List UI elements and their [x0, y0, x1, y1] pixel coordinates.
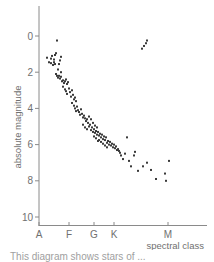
data-point: [89, 124, 91, 126]
data-point: [124, 153, 126, 155]
data-point: [108, 144, 110, 146]
data-point: [97, 140, 99, 142]
data-point: [57, 77, 59, 79]
data-point: [80, 108, 82, 110]
data-point: [94, 132, 96, 134]
data-point: [76, 106, 78, 108]
data-point: [102, 138, 104, 140]
data-point: [100, 136, 102, 138]
data-point: [134, 151, 136, 153]
data-point: [146, 162, 148, 164]
data-point: [59, 59, 61, 61]
data-point: [73, 105, 75, 107]
data-point: [56, 40, 58, 42]
x-tick-label: A: [36, 229, 43, 240]
hr-diagram-chart: 0246810 AFGKM absolute magnitude spectra…: [0, 0, 214, 250]
data-point: [94, 125, 96, 127]
data-point: [122, 158, 124, 160]
data-point: [96, 126, 98, 128]
data-point: [165, 180, 167, 182]
data-point: [112, 146, 114, 148]
data-point: [90, 118, 92, 120]
scatter-points: [46, 40, 170, 182]
data-point: [70, 96, 72, 98]
data-point: [145, 42, 147, 44]
y-axis-title: absolute magnitude: [12, 86, 23, 169]
data-point: [164, 173, 166, 175]
data-point: [126, 136, 128, 138]
data-point: [64, 88, 66, 90]
data-point: [105, 136, 107, 138]
data-point: [56, 75, 58, 77]
data-point: [115, 145, 117, 147]
data-point: [67, 81, 69, 83]
data-point: [92, 131, 94, 133]
data-point: [110, 145, 112, 147]
data-point: [85, 120, 87, 122]
data-point: [65, 78, 67, 80]
data-point: [168, 160, 170, 162]
data-point: [142, 165, 144, 167]
data-point: [113, 144, 115, 146]
data-point: [66, 93, 68, 95]
data-point: [60, 56, 62, 58]
data-point: [59, 78, 61, 80]
x-tick-label: F: [66, 229, 72, 240]
data-point: [96, 134, 98, 136]
data-point: [64, 80, 66, 82]
x-tick-label: K: [111, 229, 118, 240]
data-point: [128, 160, 130, 162]
data-point: [68, 87, 70, 89]
data-point: [120, 154, 122, 156]
data-point: [137, 170, 139, 172]
data-point: [71, 89, 73, 91]
data-point: [74, 97, 76, 99]
data-point: [52, 64, 54, 66]
data-point: [133, 154, 135, 156]
data-point: [107, 140, 109, 142]
data-point: [91, 126, 93, 128]
data-point: [63, 82, 65, 84]
data-point: [93, 128, 95, 130]
data-point: [118, 150, 120, 152]
data-point: [146, 40, 148, 42]
data-point: [87, 122, 89, 124]
data-point: [86, 128, 88, 130]
data-point: [88, 116, 90, 118]
data-point: [119, 152, 121, 154]
data-point: [53, 59, 55, 61]
data-point: [62, 79, 64, 81]
y-tick-label: 10: [22, 212, 34, 223]
data-point: [130, 165, 132, 167]
data-point: [104, 145, 106, 147]
data-point: [93, 135, 95, 137]
data-point: [71, 102, 73, 104]
data-point: [57, 68, 59, 70]
y-tick-label: 4: [27, 103, 33, 114]
data-point: [79, 114, 81, 116]
data-point: [155, 178, 157, 180]
data-point: [58, 63, 60, 65]
data-point: [141, 48, 143, 50]
data-point: [81, 113, 83, 115]
data-point: [54, 54, 56, 56]
data-point: [82, 124, 84, 126]
data-point: [75, 100, 77, 102]
data-point: [55, 73, 57, 75]
x-axis-title: spectral class: [146, 240, 204, 250]
x-tick-label: G: [90, 229, 98, 240]
data-point: [77, 109, 79, 111]
y-tick-label: 6: [27, 139, 33, 150]
data-point: [114, 147, 116, 149]
data-point: [88, 126, 90, 128]
data-point: [98, 135, 100, 137]
data-point: [46, 57, 48, 59]
data-point: [111, 143, 113, 145]
data-point: [84, 126, 86, 128]
x-axis-ticks: AFGKM: [36, 222, 173, 240]
data-point: [102, 143, 104, 145]
data-point: [99, 133, 101, 135]
data-point: [60, 76, 62, 78]
data-point: [65, 90, 67, 92]
data-point: [106, 142, 108, 144]
